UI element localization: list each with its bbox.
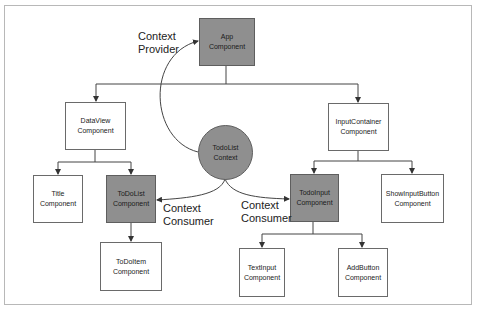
node-label: ToDoList [117, 189, 144, 199]
node-label: ShowInputButton [386, 189, 439, 199]
addbutton-component-node: AddButton Component [338, 248, 388, 297]
node-sublabel: Component [113, 267, 149, 277]
node-label: InputContainer [336, 117, 382, 127]
node-sublabel: Component [340, 127, 376, 137]
node-sublabel: Component [40, 199, 76, 209]
todoinput-component-node: TodoInput Component [290, 174, 339, 222]
node-label: App [221, 32, 233, 42]
textinput-component-node: TextInput Component [239, 248, 285, 297]
node-label: TodoList [212, 143, 238, 153]
node-sublabel: Component [77, 126, 113, 136]
context-provider-label: Context Provider [138, 30, 179, 56]
context-consumer-right-label: Context Consumer [241, 199, 292, 225]
node-label: AddButton [347, 263, 380, 273]
node-sublabel: Component [394, 199, 430, 209]
app-component-node: App Component [199, 18, 255, 66]
todoitem-component-node: ToDoItem Component [100, 242, 162, 291]
node-sublabel: Component [296, 198, 332, 208]
node-sublabel: Component [244, 273, 280, 283]
node-sublabel: Context [213, 153, 237, 163]
dataview-component-node: DataView Component [65, 102, 126, 150]
showinputbutton-component-node: ShowInputButton Component [381, 174, 444, 223]
node-label: TextInput [248, 263, 276, 273]
node-label: TodoInput [299, 188, 330, 198]
node-label: DataView [81, 116, 111, 126]
node-sublabel: Component [113, 199, 149, 209]
context-consumer-left-label: Context Consumer [163, 202, 214, 228]
inputcontainer-component-node: InputContainer Component [328, 103, 389, 151]
node-sublabel: Component [209, 42, 245, 52]
node-sublabel: Component [345, 273, 381, 283]
todolist-component-node: ToDoList Component [106, 175, 156, 223]
node-label: Title [52, 189, 65, 199]
todolist-context-node: TodoList Context [198, 125, 253, 180]
title-component-node: Title Component [33, 175, 83, 223]
node-label: ToDoItem [116, 257, 146, 267]
